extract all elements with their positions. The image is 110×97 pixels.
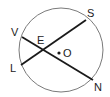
label-l: L (10, 62, 16, 74)
label-v: V (11, 26, 19, 38)
label-e: E (37, 34, 44, 46)
label-n: N (94, 81, 102, 93)
circle-diagram: V S L N E O (0, 0, 110, 97)
center-point-dot (57, 51, 60, 54)
label-s: S (87, 7, 94, 19)
label-o: O (63, 47, 72, 59)
chord-vn (22, 37, 93, 80)
